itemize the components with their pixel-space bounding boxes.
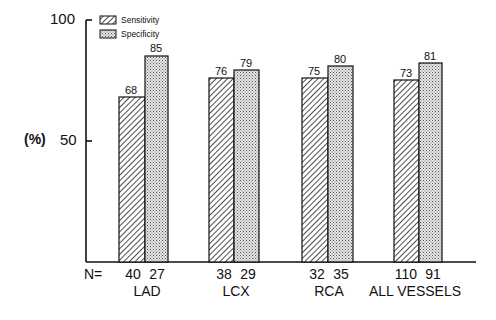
bars [119,56,442,262]
legend-swatch-sensitivity [100,16,116,24]
value-label: 80 [334,53,346,65]
y-tick-100: 100 [50,10,75,27]
n-label: 38 [216,266,232,282]
n-label: 110 [395,266,417,282]
value-label: 85 [150,42,162,54]
value-label: 73 [400,67,412,79]
category-label: RCA [314,283,344,299]
value-label: 75 [308,65,320,77]
legend-label-sensitivity: Sensitivity [121,15,159,25]
legend-label-specificity: Specificity [121,29,159,39]
y-axis-label: (%) [24,131,46,147]
n-label: 29 [240,266,256,282]
value-label: 68 [125,84,137,96]
value-label: 81 [424,50,436,62]
n-label: 35 [333,266,349,282]
y-tick-50: 50 [60,131,77,148]
legend-swatch-specificity [100,30,116,38]
value-label: 79 [240,57,252,69]
n-label: 32 [309,266,325,282]
n-label: 40 [125,266,141,282]
n-prefix: N= [84,266,102,282]
category-label: LCX [222,283,249,299]
n-label: 27 [149,266,165,282]
category-label: ALL VESSELS [369,283,461,299]
value-label: 76 [215,65,227,77]
n-label: 91 [425,266,441,282]
category-label: LAD [133,283,160,299]
